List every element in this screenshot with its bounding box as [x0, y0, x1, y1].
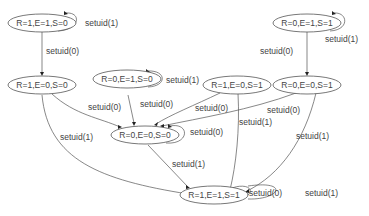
- svg-text:setuid(0): setuid(0): [249, 188, 282, 198]
- state-diagram: setuid(1) setuid(0) setuid(1) setuid(0) …: [0, 0, 369, 216]
- edge-101-to-111: setuid(1): [228, 93, 272, 192]
- edge-011-to-001: setuid(0): [260, 30, 309, 76]
- state-node-r0-e0-s1: R=0,E=0,S=1: [273, 76, 341, 94]
- state-node-r1-e1-s0: R=1,E=1,S=0: [8, 14, 76, 32]
- svg-text:setuid(0): setuid(0): [267, 105, 300, 115]
- svg-text:setuid(0): setuid(0): [195, 103, 228, 113]
- state-node-r0-e1-s1: R=0,E=1,S=1: [273, 14, 341, 32]
- edge-000-to-111: setuid(1): [148, 145, 205, 189]
- edge-110-to-100: setuid(0): [40, 30, 79, 76]
- svg-text:setuid(1): setuid(1): [166, 75, 199, 85]
- svg-text:R=1,E=0,S=1: R=1,E=0,S=1: [211, 80, 263, 90]
- svg-text:R=0,E=1,S=0: R=0,E=1,S=0: [101, 74, 153, 84]
- svg-text:setuid(0): setuid(0): [46, 46, 79, 56]
- svg-text:R=0,E=1,S=1: R=0,E=1,S=1: [281, 18, 333, 28]
- svg-text:R=0,E=0,S=0: R=0,E=0,S=0: [119, 130, 171, 140]
- edge-010-to-000: setuid(0): [128, 95, 173, 126]
- svg-text:setuid(1): setuid(1): [239, 117, 272, 127]
- state-node-r0-e0-s0: R=0,E=0,S=0: [111, 126, 179, 144]
- svg-text:setuid(1): setuid(1): [60, 132, 93, 142]
- edge-101-to-000: setuid(0): [154, 93, 228, 126]
- svg-text:R=1,E=1,S=1: R=1,E=1,S=1: [188, 190, 240, 200]
- state-node-r0-e1-s0: R=0,E=1,S=0: [93, 70, 161, 88]
- svg-text:R=1,E=1,S=0: R=1,E=1,S=0: [16, 18, 68, 28]
- svg-text:R=1,E=0,S=0: R=1,E=0,S=0: [16, 80, 68, 90]
- svg-text:setuid(0): setuid(0): [88, 102, 121, 112]
- edge-100-to-000: setuid(0): [52, 94, 122, 129]
- svg-text:setuid(1): setuid(1): [305, 188, 338, 198]
- svg-text:setuid(1): setuid(1): [85, 18, 118, 28]
- state-node-r1-e0-s0: R=1,E=0,S=0: [8, 76, 76, 94]
- state-node-r1-e0-s1: R=1,E=0,S=1: [203, 76, 271, 94]
- edge-001-to-000: setuid(0): [160, 93, 300, 128]
- svg-text:setuid(1): setuid(1): [172, 159, 205, 169]
- svg-text:setuid(0): setuid(0): [260, 46, 293, 56]
- svg-text:setuid(0): setuid(0): [190, 127, 223, 137]
- edge-111-self-setuid0: setuid(0): [248, 185, 282, 199]
- svg-text:setuid(1): setuid(1): [296, 131, 329, 141]
- svg-text:R=0,E=0,S=1: R=0,E=0,S=1: [281, 80, 333, 90]
- svg-text:setuid(1): setuid(1): [325, 34, 358, 44]
- state-node-r1-e1-s1: R=1,E=1,S=1: [180, 186, 248, 204]
- svg-text:setuid(0): setuid(0): [140, 99, 173, 109]
